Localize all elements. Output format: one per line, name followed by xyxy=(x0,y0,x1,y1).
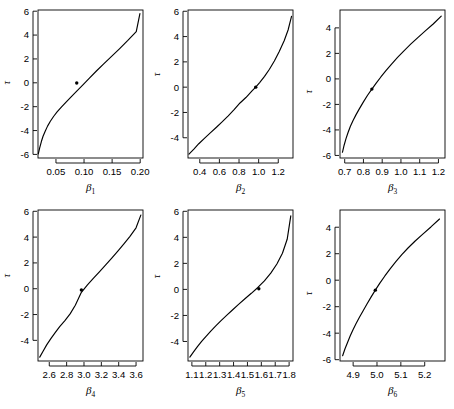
plot-box xyxy=(188,10,293,158)
x-tick-label: 1.7 xyxy=(269,369,282,380)
panel-beta-6: -6-4-2024τ4.95.05.15.2β6 xyxy=(300,200,454,409)
y-tick-label: -2 xyxy=(20,101,29,112)
profile-curve xyxy=(189,16,292,154)
x-tick-label: 2.6 xyxy=(43,369,56,380)
y-tick-label: 4 xyxy=(174,232,180,243)
y-tick-label: -2 xyxy=(20,309,29,320)
y-tick-label: 4 xyxy=(24,29,30,40)
x-axis-title: β1 xyxy=(85,181,95,196)
x-tick-label: 1.6 xyxy=(255,369,268,380)
x-tick-label: 2.8 xyxy=(60,369,73,380)
panel-beta-3: -6-4-2024τ0.70.80.91.01.11.2β3 xyxy=(300,0,454,200)
y-tick-label: 0 xyxy=(174,284,179,295)
estimate-marker xyxy=(75,81,78,84)
panel-beta-5: -4-20246τ1.11.21.31.41.51.61.71.8β5 xyxy=(150,200,302,409)
x-tick-label: 0.20 xyxy=(131,166,150,177)
x-axis-title: β3 xyxy=(387,181,397,196)
profile-curve xyxy=(40,215,141,357)
y-tick-label: 0 xyxy=(326,275,331,286)
x-tick-label: 0.7 xyxy=(338,166,351,177)
x-tick-label: 1.1 xyxy=(413,166,426,177)
profile-curve xyxy=(190,216,291,357)
y-tick-label: 2 xyxy=(326,48,331,59)
y-tick-label: 6 xyxy=(24,206,29,217)
panel-beta-4: -4-20246τ2.62.83.03.23.43.6β4 xyxy=(0,200,152,409)
estimate-marker xyxy=(370,87,373,90)
x-tick-label: 1.2 xyxy=(199,369,212,380)
profile-curve xyxy=(343,219,440,356)
y-axis-title: τ xyxy=(151,274,162,278)
y-tick-label: -2 xyxy=(170,107,179,118)
x-tick-label: 1.3 xyxy=(213,369,226,380)
estimate-marker xyxy=(254,85,257,88)
x-tick-label: 5.2 xyxy=(418,369,431,380)
y-tick-label: 2 xyxy=(24,257,29,268)
panel-beta-1: -6-4-20246τ0.050.100.150.20β1 xyxy=(0,0,152,200)
x-tick-label: 5.1 xyxy=(394,369,407,380)
x-tick-label: 1.0 xyxy=(394,166,407,177)
y-tick-label: -6 xyxy=(322,354,331,365)
x-tick-label: 3.4 xyxy=(112,369,126,380)
y-tick-label: -6 xyxy=(322,150,331,161)
y-axis-title: τ xyxy=(1,81,12,85)
y-tick-label: 6 xyxy=(174,206,179,217)
plot-box xyxy=(340,10,445,158)
y-tick-label: -2 xyxy=(322,301,331,312)
plot-box xyxy=(340,210,445,361)
y-tick-label: 4 xyxy=(24,232,30,243)
x-tick-label: 0.4 xyxy=(193,166,207,177)
x-tick-label: 0.10 xyxy=(75,166,94,177)
profile-likelihood-figure: -6-4-20246τ0.050.100.150.20β1-4-20246τ0.… xyxy=(0,0,454,409)
y-tick-label: 4 xyxy=(326,22,332,33)
y-tick-label: 2 xyxy=(174,258,179,269)
x-tick-label: 0.05 xyxy=(47,166,66,177)
y-tick-label: 6 xyxy=(174,6,179,17)
y-tick-label: 2 xyxy=(24,53,29,64)
y-tick-label: -4 xyxy=(170,132,179,143)
x-tick-label: 3.0 xyxy=(77,369,90,380)
y-axis-title: τ xyxy=(303,89,314,93)
y-tick-label: -4 xyxy=(20,125,29,136)
x-tick-label: 0.8 xyxy=(357,166,370,177)
x-axis-title: β6 xyxy=(387,384,397,399)
x-tick-label: 1.0 xyxy=(252,166,265,177)
y-tick-label: 0 xyxy=(24,283,29,294)
profile-curve xyxy=(38,14,140,154)
x-tick-label: 3.2 xyxy=(95,369,108,380)
y-tick-label: -2 xyxy=(322,99,331,110)
x-tick-label: 1.5 xyxy=(241,369,254,380)
y-tick-label: 2 xyxy=(326,248,331,259)
y-tick-label: 4 xyxy=(174,31,180,42)
y-tick-label: -4 xyxy=(322,328,331,339)
y-tick-label: 0 xyxy=(326,73,331,84)
estimate-marker xyxy=(80,288,83,291)
y-tick-label: -4 xyxy=(170,336,179,347)
x-axis-title: β5 xyxy=(235,384,245,399)
estimate-marker xyxy=(374,288,377,291)
x-tick-label: 1.1 xyxy=(185,369,198,380)
estimate-marker xyxy=(257,287,260,290)
x-tick-label: 0.8 xyxy=(232,166,245,177)
y-axis-title: τ xyxy=(1,274,12,278)
x-tick-label: 0.9 xyxy=(376,166,389,177)
x-tick-label: 0.6 xyxy=(213,166,226,177)
y-tick-label: -4 xyxy=(322,124,331,135)
plot-box xyxy=(38,210,143,361)
x-tick-label: 1.8 xyxy=(282,369,295,380)
x-tick-label: 3.6 xyxy=(129,369,142,380)
x-tick-label: 4.9 xyxy=(346,369,359,380)
y-tick-label: 6 xyxy=(24,6,29,17)
x-tick-label: 1.4 xyxy=(227,369,241,380)
x-tick-label: 1.2 xyxy=(272,166,285,177)
plot-box xyxy=(38,10,143,158)
x-axis-title: β4 xyxy=(85,384,95,399)
y-tick-label: -4 xyxy=(20,335,29,346)
y-tick-label: -6 xyxy=(20,149,29,160)
y-tick-label: -2 xyxy=(170,310,179,321)
y-tick-label: 2 xyxy=(174,56,179,67)
x-tick-label: 5.0 xyxy=(370,369,383,380)
y-tick-label: 4 xyxy=(326,222,332,233)
y-axis-title: τ xyxy=(151,72,162,76)
y-tick-label: 0 xyxy=(174,82,179,93)
x-tick-label: 1.2 xyxy=(432,166,445,177)
